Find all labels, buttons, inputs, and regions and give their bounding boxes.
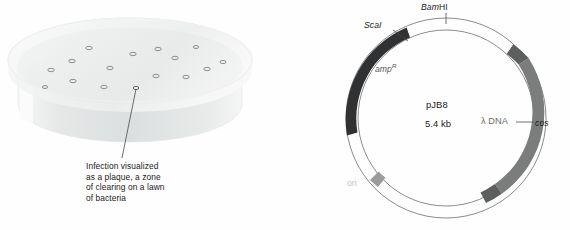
- caption-line-4: of bacteria: [86, 193, 216, 204]
- ori-block: [370, 172, 386, 188]
- label-scai: ScaI: [364, 20, 382, 30]
- label-bamhi: BamHI: [421, 2, 448, 12]
- figure-root: Infection visualized as a plaque, a zone…: [0, 0, 570, 230]
- caption-line-1: Infection visualized: [86, 161, 216, 172]
- label-plasmid-size: 5.4 kb: [425, 118, 451, 129]
- label-bamhi-roman: HI: [439, 2, 448, 12]
- label-amp-resistance: ampR: [375, 62, 397, 74]
- plasmid-map-panel: BamHI ScaI ampR pJB8 5.4 kb λ DNA cos or…: [285, 0, 570, 230]
- caption-line-2: as a plaque, a zone: [86, 172, 216, 183]
- label-amp-text: amp: [375, 64, 392, 74]
- dish-rim: [8, 18, 252, 112]
- plaque-caption: Infection visualized as a plaque, a zone…: [86, 161, 216, 204]
- amp-resistance-segment: [346, 28, 410, 136]
- plasmid-circle-diagram: [285, 0, 570, 230]
- caption-line-3: of clearing on a lawn: [86, 182, 216, 193]
- label-plasmid-name: pJB8: [426, 99, 448, 110]
- label-bamhi-italic: Bam: [421, 2, 439, 12]
- label-lambda-dna: λ DNA: [481, 116, 508, 126]
- label-cos-site: cos: [535, 118, 549, 128]
- label-origin-of-replication: ori: [347, 178, 357, 188]
- petri-dish-panel: Infection visualized as a plaque, a zone…: [0, 0, 285, 230]
- label-amp-superscript: R: [392, 62, 397, 69]
